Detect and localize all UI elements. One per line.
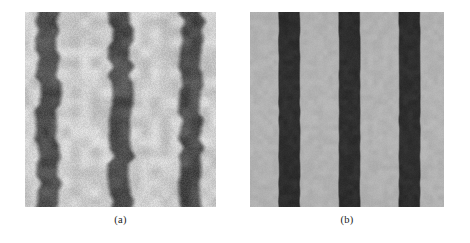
panel-a-caption: (a) <box>25 214 216 225</box>
figure-panel-b: (b) <box>235 0 470 243</box>
panel-b-caption: (b) <box>250 214 444 225</box>
figure-panel-a: (a) <box>0 0 235 243</box>
panel-a-canvas <box>25 12 216 207</box>
panel-b-image <box>250 12 444 207</box>
panel-a-image <box>25 12 216 207</box>
panel-b-canvas <box>250 12 444 207</box>
figure-root: (a) (b) <box>0 0 470 243</box>
